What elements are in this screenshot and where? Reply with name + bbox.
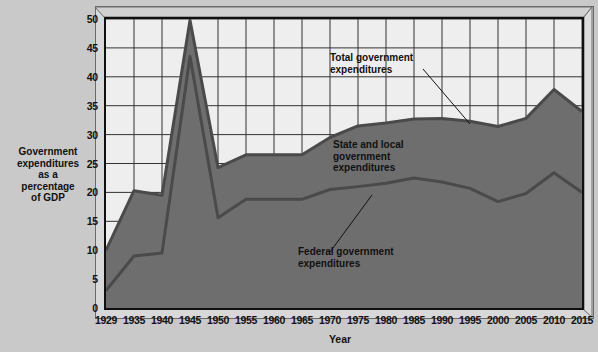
y-tick-label: 50	[74, 13, 98, 25]
y-tick-label: 40	[74, 71, 98, 83]
y-axis-title: Governmentexpendituresas apercentageof G…	[4, 146, 92, 204]
annotation-total-line-2: expenditures	[330, 64, 450, 76]
annotation-federal-government: Federal government expenditures	[298, 246, 418, 269]
annotation-federal-line-2: expenditures	[298, 258, 418, 270]
y-tick-label: 5	[74, 273, 98, 285]
annotation-total-line-1: Total government	[330, 52, 450, 64]
annotation-total-government: Total government expenditures	[330, 52, 450, 75]
y-axis-title-line-4: percentage	[4, 181, 92, 193]
y-axis-title-line-5: of GDP	[4, 192, 92, 204]
y-tick-label: 45	[74, 42, 98, 54]
y-tick-label: 35	[74, 100, 98, 112]
annotation-state-line-2: government	[333, 151, 429, 163]
x-axis-title: Year	[300, 333, 380, 345]
y-tick-label: 30	[74, 129, 98, 141]
y-tick-label: 15	[74, 215, 98, 227]
annotation-state-local: State and local government expenditures	[333, 139, 429, 174]
annotation-state-line-3: expenditures	[333, 162, 429, 174]
y-axis-title-line-1: Government	[4, 146, 92, 158]
chart-figure: 05101520253035404550 1929193519401945195…	[0, 0, 598, 352]
annotation-state-line-1: State and local	[333, 139, 429, 151]
annotation-federal-line-1: Federal government	[298, 246, 418, 258]
y-axis-title-line-3: as a	[4, 169, 92, 181]
y-axis-title-line-2: expenditures	[4, 158, 92, 170]
y-tick-label: 0	[74, 302, 98, 314]
x-tick-label: 2015	[565, 314, 598, 326]
y-tick-label: 10	[74, 244, 98, 256]
